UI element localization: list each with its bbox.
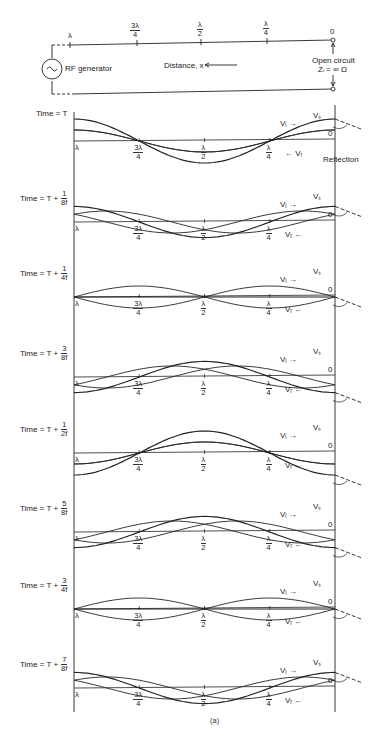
time-label: Time = T +34f <box>20 577 67 594</box>
reflection-label: Reflection <box>323 155 359 164</box>
position-3lambda-4: 3λ4 <box>130 22 140 39</box>
vs-label: Vₛ <box>313 267 321 276</box>
axis-label-3lambda-4: 3λ4 <box>133 225 143 242</box>
time-label: Time = T +14f <box>20 265 67 282</box>
axis-label-3lambda-4: 3λ4 <box>133 535 143 552</box>
time-fraction: 78f <box>61 656 67 673</box>
panel-4 <box>74 361 361 402</box>
time-prefix: Time = T <box>36 109 67 118</box>
panel-7 <box>74 598 361 620</box>
vi-label: Vᵢ → <box>280 587 297 596</box>
axis-label-lambda: λ <box>75 534 79 543</box>
transmission-line <box>52 38 335 112</box>
position-lambda-2: λ2 <box>197 21 203 38</box>
time-fraction: 34f <box>61 577 67 594</box>
vr-label: Vᵣ ← <box>285 696 302 705</box>
load-impedance-label: Zₗ = ∞ Ω <box>318 65 347 74</box>
position-zero: 0 <box>330 27 334 36</box>
axis-label-lambda-2: λ2 <box>201 300 207 317</box>
vi-label: Vᵢ → <box>280 431 297 440</box>
axis-label-lambda: λ <box>75 455 79 464</box>
axis-label-zero: 0 <box>328 129 332 138</box>
vs-label: Vₛ <box>313 111 321 120</box>
wave-panels <box>74 112 361 712</box>
vi-label: Vᵢ → <box>280 275 297 284</box>
panel-5 <box>74 431 361 485</box>
axis-label-lambda-2: λ2 <box>201 380 207 397</box>
vr-label: Vᵣ ← <box>285 461 302 470</box>
vs-label: Vₛ <box>313 423 321 432</box>
vi-label: Vᵢ → <box>280 510 297 519</box>
axis-label-3lambda-4: 3λ4 <box>133 380 143 397</box>
axis-label-zero: 0 <box>328 676 332 685</box>
axis-label-lambda: λ <box>75 611 79 620</box>
axis-label-lambda-4: λ4 <box>266 456 272 473</box>
vr-label: Vᵣ ← <box>285 540 302 549</box>
time-prefix: Time = T + <box>20 504 58 513</box>
vr-label: Vᵣ ← <box>285 385 302 394</box>
axis-label-lambda-4: λ4 <box>266 535 272 552</box>
axis-label-3lambda-4: 3λ4 <box>133 612 143 629</box>
time-fraction: 58f <box>61 500 67 517</box>
axis-label-3lambda-4: 3λ4 <box>133 144 143 161</box>
axis-label-3lambda-4: 3λ4 <box>133 300 143 317</box>
time-fraction: 18f <box>61 190 67 207</box>
time-label: Time = T +78f <box>20 656 67 673</box>
time-fraction: 38f <box>61 345 67 362</box>
figure-caption: (a) <box>210 716 219 725</box>
vi-label: Vᵢ → <box>280 200 297 209</box>
vr-label: Vᵣ ← <box>285 305 302 314</box>
vi-label: Vᵢ → <box>280 355 297 364</box>
axis-label-lambda-4: λ4 <box>266 144 272 161</box>
vr-label: Vᵣ ← <box>285 617 302 626</box>
axis-label-lambda-2: λ2 <box>201 456 207 473</box>
axis-label-zero: 0 <box>328 597 332 606</box>
axis-label-zero: 0 <box>328 441 332 450</box>
axis-label-lambda: λ <box>75 690 79 699</box>
axis-label-lambda-2: λ2 <box>201 612 207 629</box>
axis-label-lambda-2: λ2 <box>201 691 207 708</box>
time-prefix: Time = T + <box>20 425 58 434</box>
time-prefix: Time = T + <box>20 269 58 278</box>
panel-8 <box>74 672 361 703</box>
vs-label: Vₛ <box>313 192 321 201</box>
panel-3 <box>74 286 361 308</box>
axis-label-lambda: λ <box>75 379 79 388</box>
vi-label: Vᵢ → <box>280 119 297 128</box>
time-label: Time = T +12f <box>20 421 67 438</box>
axis-label-lambda-4: λ4 <box>266 225 272 242</box>
time-label: Time = T +58f <box>20 500 67 517</box>
axis-label-lambda-2: λ2 <box>201 144 207 161</box>
distance-label: Distance, x <box>164 61 204 70</box>
axis-label-zero: 0 <box>328 210 332 219</box>
axis-label-zero: 0 <box>328 520 332 529</box>
time-fraction: 14f <box>61 265 67 282</box>
vi-label: Vᵢ → <box>280 666 297 675</box>
time-prefix: Time = T + <box>20 194 58 203</box>
rf-generator-icon <box>42 59 62 79</box>
vs-label: Vₛ <box>313 502 321 511</box>
axis-label-zero: 0 <box>328 285 332 294</box>
time-label: Time = T +38f <box>20 345 67 362</box>
position-lambda-4: λ4 <box>263 20 269 37</box>
position-lambda: λ <box>68 31 72 40</box>
vs-label: Vₛ <box>313 579 321 588</box>
panel-6 <box>74 516 361 557</box>
vs-label: Vₛ <box>313 658 321 667</box>
time-label: Time = T <box>36 109 67 118</box>
axis-label-3lambda-4: 3λ4 <box>133 691 143 708</box>
axis-label-lambda: λ <box>75 143 79 152</box>
axis-label-lambda-2: λ2 <box>201 535 207 552</box>
time-prefix: Time = T + <box>20 660 58 669</box>
time-prefix: Time = T + <box>20 581 58 590</box>
axis-label-lambda-4: λ4 <box>266 612 272 629</box>
time-fraction: 12f <box>61 421 67 438</box>
open-circuit-label: Open circuit <box>312 56 355 65</box>
vr-label: ← Vᵣ <box>285 149 302 158</box>
panel-1 <box>74 119 361 163</box>
vs-label: Vₛ <box>313 347 321 356</box>
panel-2 <box>74 206 361 237</box>
axis-label-lambda: λ <box>75 299 79 308</box>
axis-label-3lambda-4: 3λ4 <box>133 456 143 473</box>
axis-label-zero: 0 <box>328 365 332 374</box>
